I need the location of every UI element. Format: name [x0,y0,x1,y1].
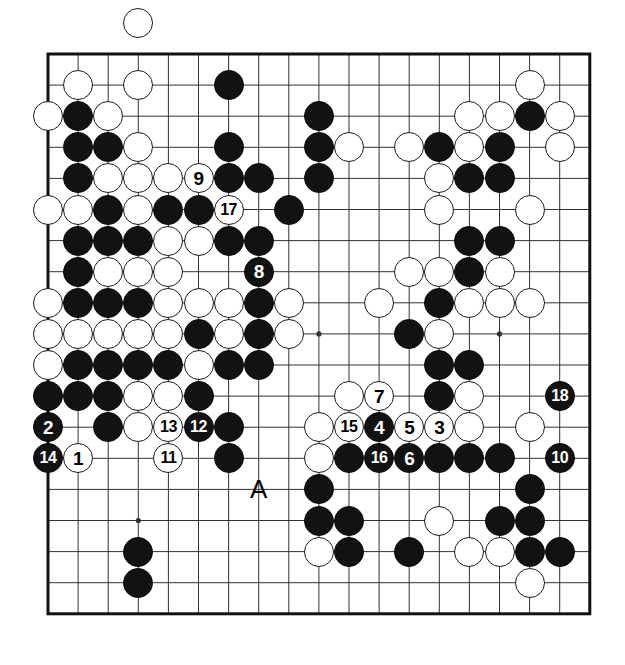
black-stone[interactable] [93,350,123,380]
black-stone[interactable] [153,195,183,225]
black-stone[interactable] [304,506,334,536]
white-stone[interactable] [123,257,153,287]
black-stone[interactable] [454,226,484,256]
white-stone[interactable] [334,381,364,411]
white-stone[interactable] [153,226,183,256]
move-stone-8[interactable]: 8 [244,257,274,287]
white-stone[interactable] [454,288,484,318]
black-stone[interactable] [214,163,244,193]
white-stone[interactable] [485,537,515,567]
black-stone[interactable] [244,350,274,380]
white-stone[interactable] [274,288,304,318]
white-stone[interactable] [33,288,63,318]
white-stone[interactable] [123,195,153,225]
black-stone[interactable] [184,319,214,349]
white-stone[interactable] [153,288,183,318]
black-stone[interactable] [485,443,515,473]
white-stone[interactable] [33,350,63,380]
white-stone[interactable] [394,257,424,287]
white-stone[interactable] [153,257,183,287]
black-stone[interactable] [304,101,334,131]
move-stone-17[interactable]: 17 [214,195,244,225]
white-stone[interactable] [304,537,334,567]
move-stone-10[interactable]: 10 [545,443,575,473]
move-stone-18[interactable]: 18 [545,381,575,411]
black-stone[interactable] [515,474,545,504]
black-stone[interactable] [334,537,364,567]
white-stone[interactable] [454,537,484,567]
black-stone[interactable] [515,506,545,536]
marker-a[interactable]: A [244,474,274,504]
black-stone[interactable] [184,195,214,225]
white-stone[interactable] [515,195,545,225]
white-stone[interactable] [184,350,214,380]
black-stone[interactable] [93,288,123,318]
move-stone-9[interactable]: 9 [184,163,214,193]
white-stone[interactable] [63,195,93,225]
black-stone[interactable] [93,226,123,256]
black-stone[interactable] [63,381,93,411]
black-stone[interactable] [184,381,214,411]
white-stone[interactable] [304,412,334,442]
white-stone[interactable] [485,101,515,131]
black-stone[interactable] [244,288,274,318]
black-stone[interactable] [485,163,515,193]
white-stone[interactable] [304,443,334,473]
move-stone-2[interactable]: 2 [33,412,63,442]
white-stone[interactable] [545,132,575,162]
black-stone[interactable] [214,412,244,442]
black-stone[interactable] [334,506,364,536]
white-stone[interactable] [33,195,63,225]
white-stone[interactable] [214,319,244,349]
black-stone[interactable] [63,288,93,318]
black-stone[interactable] [123,537,153,567]
white-stone[interactable] [424,257,454,287]
white-stone[interactable] [214,288,244,318]
black-stone[interactable] [214,226,244,256]
black-stone[interactable] [214,132,244,162]
white-stone[interactable] [63,319,93,349]
black-stone[interactable] [214,443,244,473]
black-stone[interactable] [214,350,244,380]
black-stone[interactable] [485,226,515,256]
move-stone-15[interactable]: 15 [334,412,364,442]
white-stone[interactable] [485,288,515,318]
white-stone[interactable] [123,319,153,349]
white-stone[interactable] [515,412,545,442]
white-stone[interactable] [63,70,93,100]
black-stone[interactable] [485,132,515,162]
white-stone[interactable] [93,257,123,287]
white-stone[interactable] [93,319,123,349]
black-stone[interactable] [123,568,153,598]
black-stone[interactable] [93,195,123,225]
black-stone[interactable] [123,226,153,256]
white-stone[interactable] [485,257,515,287]
black-stone[interactable] [274,195,304,225]
white-stone[interactable] [545,101,575,131]
white-stone[interactable] [515,288,545,318]
white-stone[interactable] [184,288,214,318]
white-stone[interactable] [424,195,454,225]
black-stone[interactable] [515,537,545,567]
white-stone[interactable] [33,101,63,131]
black-stone[interactable] [515,101,545,131]
white-stone[interactable] [33,319,63,349]
move-stone-12[interactable]: 12 [184,412,214,442]
white-stone[interactable] [123,8,153,38]
black-stone[interactable] [63,350,93,380]
black-stone[interactable] [244,319,274,349]
black-stone[interactable] [545,537,575,567]
black-stone[interactable] [394,537,424,567]
white-stone[interactable] [515,568,545,598]
black-stone[interactable] [244,226,274,256]
black-stone[interactable] [485,506,515,536]
black-stone[interactable] [33,381,63,411]
white-stone[interactable] [364,288,394,318]
white-stone[interactable] [515,70,545,100]
black-stone[interactable] [63,226,93,256]
black-stone[interactable] [454,257,484,287]
black-stone[interactable] [394,319,424,349]
black-stone[interactable] [304,132,334,162]
white-stone[interactable] [274,319,304,349]
move-stone-7[interactable]: 7 [364,381,394,411]
